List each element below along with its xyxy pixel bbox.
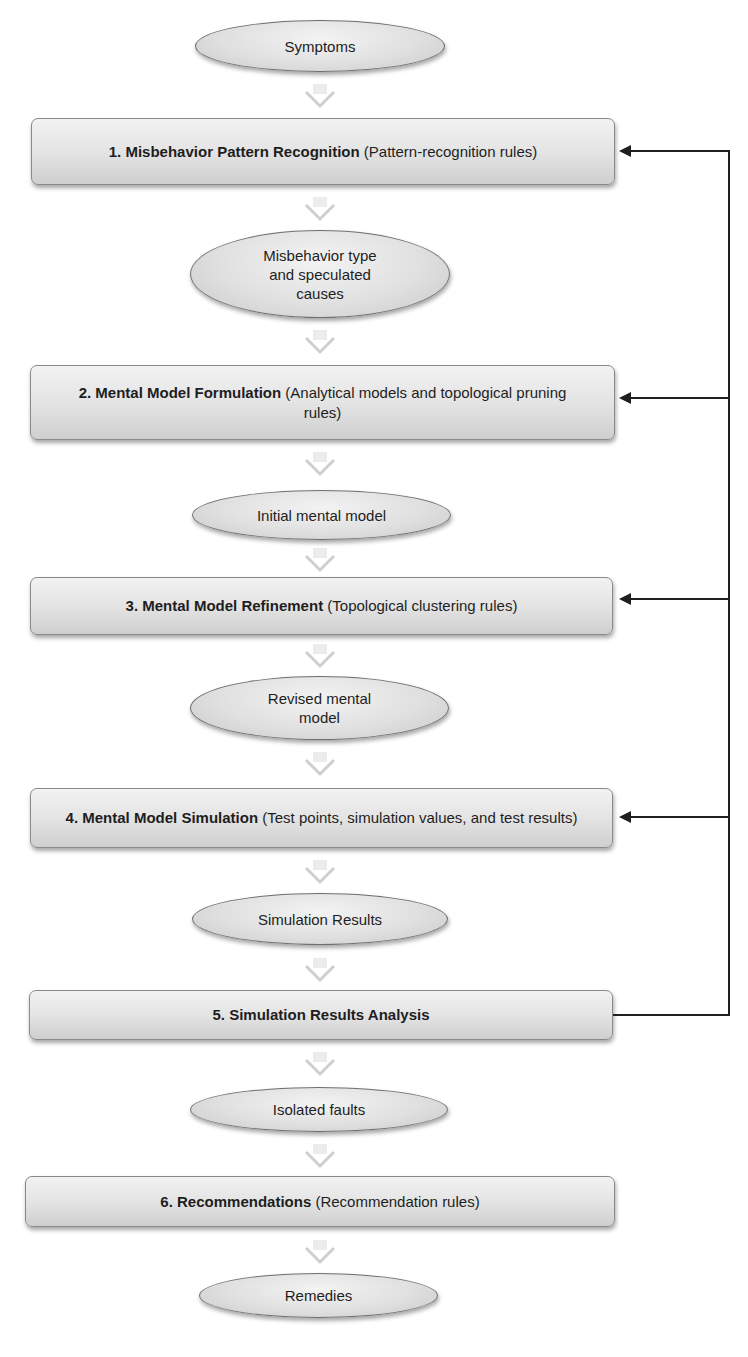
node-isolated-faults-label: Isolated faults	[273, 1100, 366, 1119]
chevron-down-icon	[300, 1144, 340, 1170]
step-4-detail: (Test points, simulation values, and tes…	[258, 809, 577, 826]
step-6-title: 6. Recommendations	[160, 1193, 311, 1210]
step-5-title: 5. Simulation Results Analysis	[212, 1006, 429, 1023]
node-initial-mental-model-label: Initial mental model	[257, 506, 386, 525]
feedback-line-to-step4	[630, 816, 730, 818]
node-remedies-label: Remedies	[285, 1286, 353, 1305]
node-simulation-results: Simulation Results	[192, 893, 448, 945]
chevron-down-icon	[300, 860, 340, 886]
node-isolated-faults: Isolated faults	[190, 1087, 448, 1132]
step-6-box: 6. Recommendations (Recommendation rules…	[25, 1176, 615, 1227]
node-misbehavior-type: Misbehavior type and speculated causes	[190, 230, 450, 318]
node-revised-mental-model: Revised mental model	[190, 676, 449, 740]
chevron-down-icon	[300, 1052, 340, 1078]
step-2-title: 2. Mental Model Formulation	[79, 384, 282, 401]
node-remedies: Remedies	[199, 1273, 438, 1318]
arrow-left-icon	[619, 593, 631, 605]
step-3-text: 3. Mental Model Refinement (Topological …	[126, 596, 518, 616]
step-4-title: 4. Mental Model Simulation	[66, 809, 259, 826]
step-3-detail: (Topological clustering rules)	[323, 597, 517, 614]
step-5-box: 5. Simulation Results Analysis	[29, 990, 613, 1040]
step-6-detail: (Recommendation rules)	[311, 1193, 479, 1210]
step-6-text: 6. Recommendations (Recommendation rules…	[160, 1192, 479, 1212]
arrow-left-icon	[619, 392, 631, 404]
step-1-detail: (Pattern-recognition rules)	[360, 143, 538, 160]
node-symptoms-label: Symptoms	[285, 37, 356, 56]
step-4-text: 4. Mental Model Simulation (Test points,…	[66, 808, 578, 828]
step-4-box: 4. Mental Model Simulation (Test points,…	[30, 788, 613, 848]
chevron-down-icon	[300, 958, 340, 984]
step-2-text: 2. Mental Model Formulation (Analytical …	[71, 383, 574, 423]
step-1-text: 1. Misbehavior Pattern Recognition (Patt…	[109, 142, 537, 162]
node-initial-mental-model: Initial mental model	[192, 490, 451, 540]
node-symptoms: Symptoms	[195, 20, 445, 72]
feedback-line-to-step3	[630, 598, 730, 600]
chevron-down-icon	[300, 1240, 340, 1266]
feedback-line-vertical	[728, 150, 730, 1016]
step-1-title: 1. Misbehavior Pattern Recognition	[109, 143, 360, 160]
node-simulation-results-label: Simulation Results	[258, 910, 382, 929]
chevron-down-icon	[300, 330, 340, 356]
feedback-line-to-step1	[630, 150, 730, 152]
step-1-box: 1. Misbehavior Pattern Recognition (Patt…	[31, 118, 615, 185]
feedback-line-horizontal-step5	[613, 1014, 730, 1016]
node-revised-mental-model-label: Revised mental model	[261, 689, 378, 727]
step-2-box: 2. Mental Model Formulation (Analytical …	[30, 365, 615, 440]
step-3-box: 3. Mental Model Refinement (Topological …	[30, 577, 613, 635]
arrow-left-icon	[619, 145, 631, 157]
feedback-line-to-step2	[630, 397, 730, 399]
arrow-left-icon	[619, 811, 631, 823]
step-5-text: 5. Simulation Results Analysis	[212, 1005, 429, 1025]
step-2-detail: (Analytical models and topological pruni…	[281, 384, 566, 421]
node-misbehavior-type-label: Misbehavior type and speculated causes	[253, 246, 387, 303]
chevron-down-icon	[300, 548, 340, 574]
step-3-title: 3. Mental Model Refinement	[126, 597, 324, 614]
chevron-down-icon	[300, 197, 340, 223]
chevron-down-icon	[300, 644, 340, 670]
chevron-down-icon	[300, 752, 340, 778]
chevron-down-icon	[300, 452, 340, 478]
chevron-down-icon	[300, 84, 340, 110]
